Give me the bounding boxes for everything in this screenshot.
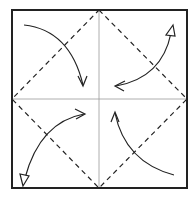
origami-diagram: Origami step: fold four corners to cente… xyxy=(0,0,192,200)
arrowhead-icon xyxy=(111,112,119,122)
hollow-arrowhead-icon xyxy=(20,174,29,186)
fold-arrow-bottom-left xyxy=(20,109,85,186)
fold-arrow-top-right xyxy=(115,25,175,91)
hollow-arrowhead-icon xyxy=(166,25,175,36)
